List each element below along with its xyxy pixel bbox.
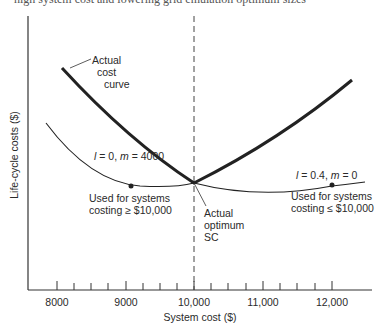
y-axis-label: Life-cycle costs ($) (8, 111, 20, 199)
x-tick-label: 8000 (45, 296, 68, 308)
leader-actual-cost (70, 59, 91, 68)
point-left (129, 184, 134, 189)
x-tick-label: 11,000 (247, 296, 278, 308)
x-tick-label: 12,000 (316, 296, 348, 308)
label-right-note: Used for systems costing ≤ $10,000 (291, 190, 374, 214)
point-right (330, 183, 335, 188)
leader-optimum (194, 183, 206, 206)
x-axis-label: System cost ($) (164, 311, 237, 323)
label-left-params: l = 0, m = 4000 (94, 150, 164, 162)
chart-plot (0, 0, 392, 336)
label-actual-cost-curve: Actual cost curve (92, 54, 130, 90)
label-left-note: Used for systems costing ≥ $10,000 (89, 192, 172, 216)
x-tick-label: 9000 (114, 296, 137, 308)
label-right-params: l = 0.4, m = 0 (296, 169, 357, 181)
x-tick-label: 10,000 (178, 296, 210, 308)
label-optimum: Actual optimum SC (204, 207, 244, 243)
